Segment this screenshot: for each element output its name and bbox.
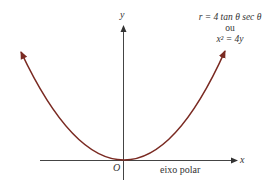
origin-label: O xyxy=(113,162,120,173)
parabola-diagram: y x O eixo polar r = 4 tan θ sec θ ou x²… xyxy=(0,0,272,185)
y-axis-label: y xyxy=(120,9,124,20)
polar-equation: r = 4 tan θ sec θ xyxy=(190,12,270,23)
x-axis-label: x xyxy=(240,154,244,165)
equation-connector: ou xyxy=(190,23,270,34)
polar-axis-label: eixo polar xyxy=(160,164,200,175)
equation-block: r = 4 tan θ sec θ ou x² = 4y xyxy=(190,12,270,45)
cartesian-equation: x² = 4y xyxy=(190,34,270,45)
